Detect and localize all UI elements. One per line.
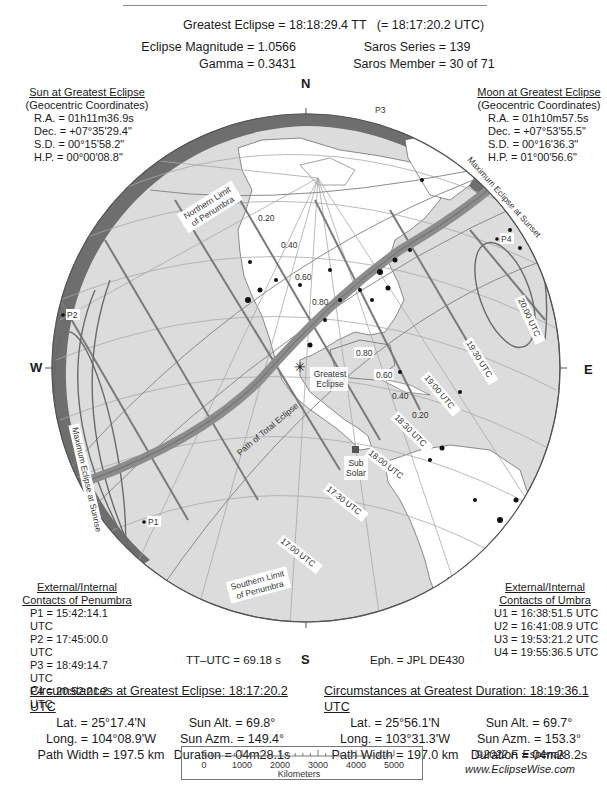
p3-marker-icon [369, 108, 373, 112]
tt-utc: TT–UTC = 69.18 s [186, 654, 281, 667]
penumbra-title-2: Contacts of Penumbra [22, 594, 132, 607]
contact-u2: U2 = 16:41:08.9 UTC [494, 620, 600, 633]
sun-sd: S.D. = 00°15'58.2" [34, 138, 152, 151]
mag-label: 0.60 [376, 370, 393, 380]
penumbra-title-1: External/Internal [22, 581, 132, 594]
mag-label: 0.60 [295, 272, 312, 282]
ge-long: Long. = 104°08.9'W [30, 731, 172, 747]
umbra-title-1: External/Internal [490, 581, 600, 594]
moon-dec: Dec. = +07°53'55.5" [488, 125, 604, 138]
sun-hp: H.P. = 00°00'08.8" [34, 151, 152, 164]
p3-label: P3 [375, 105, 386, 115]
p1-marker-icon [142, 520, 146, 524]
contact-u3: U3 = 19:53:21.2 UTC [494, 633, 600, 646]
moon-panel: Moon at Greatest Eclipse (Geocentric Coo… [474, 86, 604, 164]
website-link[interactable]: www.EclipseWise.com [460, 762, 580, 777]
ge-circ-title: Circumstances at Greatest Eclipse: 18:17… [30, 683, 292, 715]
subsolar-label: Sub [348, 458, 363, 468]
credit: ©2022 F. Espenak www.EclipseWise.com [460, 747, 580, 777]
ge-sun-alt: Sun Alt. = 69.8° [172, 715, 292, 731]
sun-dec: Dec. = +07°35'29.4" [34, 125, 152, 138]
mag-label: 0.40 [392, 391, 409, 401]
mag-label: 0.20 [258, 213, 275, 223]
p4-label: P4 [501, 234, 512, 244]
contact-p2: P2 = 17:45:00.0 UTC [30, 633, 132, 659]
gd-sun-alt: Sun Alt. = 69.7° [466, 715, 592, 731]
compass-west: W [30, 360, 42, 375]
mag-label: 0.20 [412, 410, 429, 420]
greatest-eclipse-star-icon: ✳ [294, 359, 306, 375]
moon-sd: S.D. = 00°16'36.3" [488, 138, 604, 151]
sun-panel: Sun at Greatest Eclipse (Geocentric Coor… [22, 86, 152, 164]
gd-circ-title: Circumstances at Greatest Duration: 18:1… [324, 683, 592, 715]
mag-label: 0.40 [281, 240, 298, 250]
moon-ra: R.A. = 01h10m57.5s [488, 112, 604, 125]
subsolar-label-2: Solar [346, 468, 366, 478]
compass-north: N [301, 76, 310, 91]
sun-panel-title: Sun at Greatest Eclipse [22, 86, 152, 99]
svg-text:1000: 1000 [232, 760, 252, 770]
ge-lat: Lat. = 25°17.4'N [30, 715, 172, 731]
ge-path-width: Path Width = 197.5 km [30, 747, 172, 763]
svg-text:Kilometers: Kilometers [278, 769, 321, 779]
umbra-contacts-panel: External/Internal Contacts of Umbra U1 =… [490, 581, 600, 659]
p2-label: P2 [67, 310, 78, 320]
svg-text:0: 0 [201, 760, 206, 770]
mag-label: 0.80 [356, 348, 373, 358]
svg-text:4000: 4000 [346, 760, 366, 770]
ephemeris: Eph. = JPL DE430 [370, 654, 465, 667]
mag-label: 0.80 [312, 297, 329, 307]
contact-u1: U1 = 16:38:51.5 UTC [494, 607, 600, 620]
contact-p1: P1 = 15:42:14.1 UTC [30, 607, 132, 633]
subsolar-marker-icon [352, 446, 359, 453]
sun-panel-subtitle: (Geocentric Coordinates) [22, 99, 152, 112]
scale-bar: 0 1000 2000 3000 4000 5000 Kilometers [181, 746, 423, 780]
p4-marker-icon [495, 237, 499, 241]
p1-label: P1 [148, 517, 159, 527]
greatest-eclipse-label-2: Eclipse [316, 379, 344, 389]
gd-sun-azm: Sun Azm. = 153.3° [466, 731, 592, 747]
sun-ra: R.A. = 01h11m36.9s [34, 112, 152, 125]
ge-sun-azm: Sun Azm. = 149.4° [172, 731, 292, 747]
copyright: ©2022 F. Espenak [460, 747, 580, 762]
contact-p3: P3 = 18:49:14.7 UTC [30, 659, 132, 685]
gd-long: Long. = 103°31.3'W [324, 731, 466, 747]
p2-marker-icon [61, 313, 65, 317]
compass-east: E [584, 362, 593, 377]
moon-panel-title: Moon at Greatest Eclipse [474, 86, 604, 99]
moon-hp: H.P. = 01°00'56.6" [488, 151, 604, 164]
svg-text:5000: 5000 [384, 760, 404, 770]
greatest-eclipse-label: Greatest [314, 369, 347, 379]
moon-panel-subtitle: (Geocentric Coordinates) [474, 99, 604, 112]
scale-ticks: 0 1000 2000 3000 4000 5000 Kilometers [182, 747, 422, 779]
contact-u4: U4 = 19:55:36.5 UTC [494, 646, 600, 659]
umbra-title-2: Contacts of Umbra [490, 594, 600, 607]
gd-lat: Lat. = 25°56.1'N [324, 715, 466, 731]
compass-south: S [301, 652, 310, 667]
